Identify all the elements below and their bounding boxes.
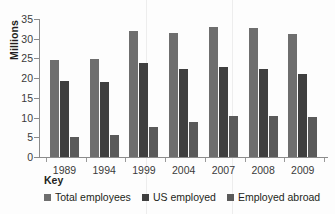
bar: [169, 33, 178, 157]
x-axis-tick: [165, 158, 166, 162]
bar: [149, 127, 158, 157]
bar: [110, 135, 119, 157]
plot-area: 05101520253035 1989199419992004200720082…: [39, 19, 328, 158]
x-axis-tick: [125, 158, 126, 162]
bar: [259, 69, 268, 157]
y-axis-tick-label: 10: [7, 113, 33, 123]
bar-group: [249, 19, 278, 157]
y-axis-tick-label: 30: [7, 34, 33, 44]
bar: [189, 122, 198, 157]
bar-group: [288, 19, 317, 157]
x-axis-tick: [284, 158, 285, 162]
bar: [249, 28, 258, 157]
bar-group: [129, 19, 158, 157]
y-axis-tick-label: 20: [7, 73, 33, 83]
y-axis-tick: [34, 157, 39, 158]
x-axis-tick: [86, 158, 87, 162]
y-axis-tick: [34, 58, 39, 59]
y-axis-tick: [34, 78, 39, 79]
legend-item: Employed abroad: [227, 191, 320, 203]
y-axis-tick-label: 0: [7, 152, 33, 162]
y-axis-tick: [34, 39, 39, 40]
legend-swatch-icon: [142, 194, 149, 201]
bar: [308, 117, 317, 157]
y-axis-tick-label: 35: [7, 14, 33, 24]
y-axis-line: [39, 19, 40, 158]
bar: [209, 27, 218, 158]
bar: [288, 34, 297, 157]
bar: [50, 60, 59, 157]
legend-label: Employed abroad: [238, 191, 320, 203]
bar: [229, 116, 238, 157]
bar: [179, 69, 188, 157]
y-axis-tick-label: 5: [7, 132, 33, 142]
legend-swatch-icon: [44, 194, 51, 201]
bar: [100, 82, 109, 157]
y-axis-tick-label: 25: [7, 53, 33, 63]
bar: [219, 67, 228, 157]
legend-label: Total employees: [55, 191, 131, 203]
bar-group: [90, 19, 119, 157]
legend-item: US employed: [142, 191, 216, 203]
bar: [70, 137, 79, 157]
y-axis-tick: [34, 118, 39, 119]
y-axis-tick: [34, 19, 39, 20]
bar: [139, 63, 148, 157]
legend-items: Total employeesUS employedEmployed abroa…: [44, 191, 329, 203]
x-axis-tick: [245, 158, 246, 162]
x-axis-tick: [46, 158, 47, 162]
bar-group: [169, 19, 198, 157]
bar-chart-figure: Millions 05101520253035 1989199419992004…: [0, 0, 335, 214]
y-axis-tick: [34, 98, 39, 99]
bar: [269, 116, 278, 157]
bar: [90, 59, 99, 157]
bar-group: [50, 19, 79, 157]
chart-legend: Key Total employeesUS employedEmployed a…: [44, 175, 329, 203]
bar: [298, 74, 307, 157]
x-axis-tick: [205, 158, 206, 162]
y-axis-tick-label: 15: [7, 93, 33, 103]
bar: [129, 31, 138, 157]
legend-title: Key: [44, 175, 329, 186]
legend-label: US employed: [153, 191, 216, 203]
bar-group: [209, 19, 238, 157]
legend-swatch-icon: [227, 194, 234, 201]
legend-item: Total employees: [44, 191, 131, 203]
y-axis-tick: [34, 137, 39, 138]
bar: [60, 81, 69, 157]
x-axis-tick: [324, 158, 325, 162]
